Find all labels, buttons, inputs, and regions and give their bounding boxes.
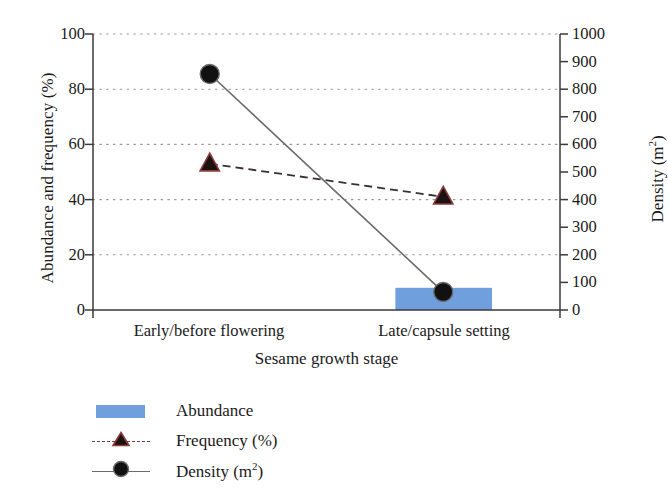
marker-density-early: [200, 65, 219, 84]
legend-label-abundance: Abundance: [154, 401, 253, 421]
legend-key-density: [88, 460, 154, 482]
bar-swatch-icon: [96, 405, 145, 418]
y-axis-right: [560, 34, 568, 310]
legend-item-density[interactable]: Density (m2): [88, 456, 278, 486]
y-axis-right-title-close: ): [648, 135, 667, 141]
y-axis-left: [85, 34, 93, 310]
line-series-frequency: [200, 153, 453, 204]
x-axis-title: Sesame growth stage: [93, 349, 560, 369]
y2-tick-label: 600: [572, 136, 618, 153]
circle-marker-icon: [111, 459, 131, 483]
x-axis: [93, 310, 560, 318]
legend-key-frequency: [88, 430, 154, 452]
y-axis-right-title: Density (m2): [646, 34, 668, 324]
y2-tick-label: 400: [572, 191, 618, 208]
y2-tick-label: 0: [572, 302, 618, 319]
y-axis-right-tick-labels: 1000 900 800 700 600 500 400 300 200 100…: [572, 0, 622, 500]
y2-tick-label: 300: [572, 219, 618, 236]
marker-density-late: [434, 283, 453, 302]
triangle-marker-icon: [111, 430, 131, 452]
y2-tick-label: 900: [572, 53, 618, 70]
y2-tick-label: 700: [572, 109, 618, 126]
legend-key-abundance: [88, 400, 154, 422]
legend-label-density: Density (m2): [154, 460, 263, 482]
line-series-density: [200, 65, 453, 302]
gridlines: [93, 34, 560, 255]
y2-tick-label: 200: [572, 247, 618, 264]
y-axis-right-title-text: Density (m: [648, 146, 667, 222]
y2-tick-label: 1000: [572, 26, 618, 43]
y-axis-left-title: Abundance and frequency (%): [38, 33, 58, 323]
y2-tick-label: 100: [572, 274, 618, 291]
y2-tick-label: 500: [572, 164, 618, 181]
legend-item-abundance[interactable]: Abundance: [88, 396, 278, 426]
chart-legend: Abundance Frequency (%): [88, 396, 278, 486]
legend-label-density-close: ): [258, 462, 264, 481]
x-category-label-late: Late/capsule setting: [378, 321, 510, 341]
legend-label-frequency: Frequency (%): [154, 431, 278, 451]
marker-frequency-early: [200, 153, 219, 171]
x-category-label-early: Early/before flowering: [134, 321, 285, 341]
legend-item-frequency[interactable]: Frequency (%): [88, 426, 278, 456]
y2-tick-label: 800: [572, 81, 618, 98]
y-axis-right-title-superscript: 2: [646, 141, 658, 147]
legend-label-density-text: Density (m: [176, 462, 252, 481]
